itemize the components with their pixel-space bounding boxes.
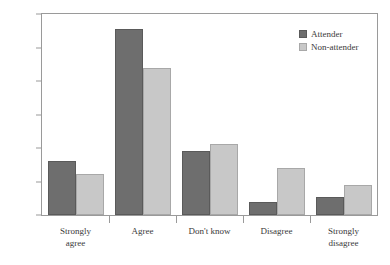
bar[interactable] [277,168,305,215]
bar-group [249,14,305,215]
bar[interactable] [48,161,76,215]
legend-label: Non-attender [311,42,358,52]
legend-swatch-icon [299,30,307,38]
x-axis-tick-mark [109,216,110,223]
bar[interactable] [182,151,210,215]
x-axis-category-label: Disagree [241,226,313,238]
x-axis-category-label: Strongly agree [40,226,112,249]
bar[interactable] [143,68,171,215]
bar-group [115,14,171,215]
x-axis-category-label: Don't know [174,226,246,238]
bar-group [48,14,104,215]
bar-group [182,14,238,215]
y-axis: 0%10%20%30%40%50%60% [0,0,41,265]
legend-item[interactable]: Non-attender [299,42,358,52]
bar[interactable] [76,174,104,215]
x-axis-category-label: Agree [107,226,179,238]
bar[interactable] [210,144,238,215]
x-axis-category-label: Strongly disagree [308,226,380,249]
legend-swatch-icon [299,43,307,51]
legend-label: Attender [311,29,343,39]
bar[interactable] [344,185,372,215]
grouped-bar-chart: 0%10%20%30%40%50%60% Strongly agreeAgree… [0,0,390,265]
bar[interactable] [316,197,344,215]
x-axis-tick-mark [310,216,311,223]
bar[interactable] [249,202,277,215]
chart-legend: AttenderNon-attender [299,29,358,52]
bar[interactable] [115,29,143,215]
x-axis-tick-mark [176,216,177,223]
x-axis-tick-mark [243,216,244,223]
legend-item[interactable]: Attender [299,29,358,39]
